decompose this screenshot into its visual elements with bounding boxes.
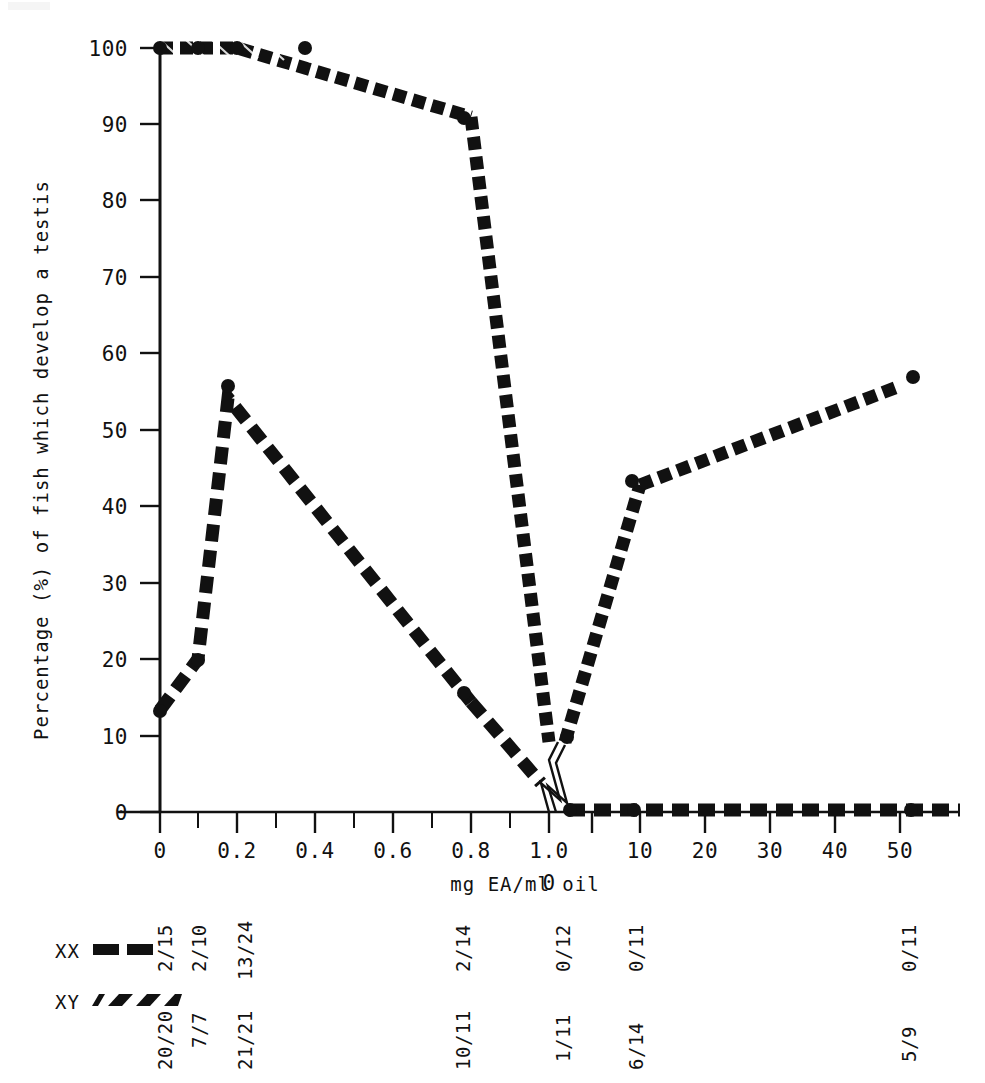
data-point (191, 41, 205, 55)
y-tick-label: 80 (102, 189, 128, 213)
xy-fraction: 6/14 (625, 1022, 647, 1070)
xx-fraction: 2/10 (188, 924, 210, 972)
xy-fraction: 1/11 (552, 1014, 574, 1062)
y-tick-label: 60 (102, 342, 128, 366)
data-point (625, 474, 639, 488)
xx-fraction: 0/12 (552, 924, 574, 972)
series-xx-segment (160, 398, 471, 710)
y-tick-label: 100 (89, 37, 128, 61)
xx-fraction: 0/11 (898, 924, 920, 972)
y-axis-title: Percentage (%) of fish which develop a t… (30, 180, 52, 740)
scan-artifact (8, 2, 50, 10)
x-tick-label: 20 (692, 839, 718, 863)
data-point (298, 41, 312, 55)
xx-fraction: 2/15 (154, 924, 176, 972)
series-xx-line (160, 398, 960, 810)
x-tick-label: 0 (153, 839, 166, 863)
series-xy-line (160, 48, 900, 742)
x-tick-label: 30 (757, 839, 783, 863)
y-tick-label: 30 (102, 572, 128, 596)
series-xy-segment (565, 485, 640, 742)
x-tick-label: 0.8 (451, 839, 490, 863)
xx-fraction: 13/24 (234, 920, 256, 980)
y-tick-labels: 100 90 80 70 60 50 40 30 20 10 0 (89, 37, 128, 825)
xx-fraction: 0/11 (625, 924, 647, 972)
data-point (457, 111, 471, 125)
xy-fraction: 10/11 (452, 1010, 474, 1070)
xx-fraction: 2/14 (452, 924, 474, 972)
y-tick-label: 20 (102, 648, 128, 672)
xx-fraction-labels: 2/15 2/10 13/24 2/14 0/12 0/11 0/11 (154, 920, 920, 980)
legend-label-xx: XX (55, 940, 80, 962)
xy-fraction-labels: 20/20 7/7 21/21 10/11 1/11 6/14 5/9 (154, 1010, 920, 1070)
xy-fraction: 20/20 (154, 1010, 176, 1070)
y-tick-label: 70 (102, 266, 128, 290)
series-xy-segment (160, 48, 471, 117)
data-point (627, 803, 641, 817)
data-point (230, 41, 244, 55)
x-tick-label: 0.6 (373, 839, 412, 863)
x-tick-label: 40 (822, 839, 848, 863)
data-point (153, 41, 167, 55)
data-point (221, 379, 235, 393)
xy-fraction: 21/21 (234, 1010, 256, 1070)
x-tick-label: 0.4 (295, 839, 334, 863)
series-xy-segment (640, 386, 900, 485)
y-tick-label: 40 (102, 495, 128, 519)
axis-break-zigzag-icon (541, 742, 567, 812)
legend-label-xy: XY (55, 991, 80, 1013)
x-tick-label: 10 (627, 839, 653, 863)
data-point (457, 686, 471, 700)
y-tick-label: 50 (102, 419, 128, 443)
x-tick-label: 50 (887, 839, 913, 863)
x-tick-label: 0.2 (217, 839, 256, 863)
series-xy-segment (471, 117, 549, 742)
chart-svg: 100 90 80 70 60 50 40 30 20 10 0 (0, 0, 985, 1083)
y-tick-label: 90 (102, 113, 128, 137)
x-tick-label: 1.0 (529, 839, 568, 863)
data-point (153, 704, 167, 718)
xy-fraction: 5/9 (898, 1026, 920, 1062)
y-ticks (140, 48, 160, 812)
data-point (906, 370, 920, 384)
legend-swatch-xx (93, 944, 153, 955)
legend-swatch-xy (92, 994, 182, 1006)
y-tick-label: 0 (115, 801, 128, 825)
data-point (563, 803, 577, 817)
series-xx-segment (471, 702, 541, 783)
y-tick-label: 10 (102, 725, 128, 749)
data-point (904, 803, 918, 817)
data-point (191, 653, 205, 667)
data-point (560, 730, 574, 744)
x-axis-title: mg EA/ml oil (450, 873, 599, 895)
figure-container: 100 90 80 70 60 50 40 30 20 10 0 (0, 0, 985, 1083)
xy-fraction: 7/7 (188, 1012, 210, 1048)
